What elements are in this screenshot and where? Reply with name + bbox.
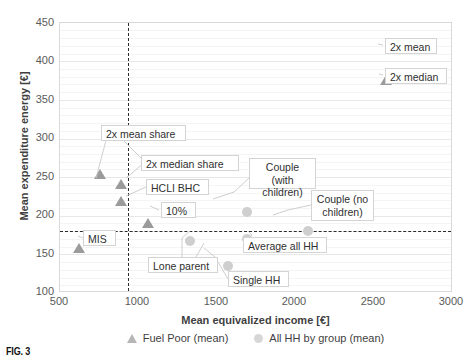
- triangle-marker-icon: [127, 334, 137, 343]
- annotation-hcli-bhc: HCLI BHC: [146, 179, 209, 195]
- gridline-minor: [60, 262, 451, 263]
- annotation-lone-parent: Lone parent: [148, 257, 218, 273]
- legend-entry-all-hh[interactable]: All HH by group (mean): [254, 332, 384, 344]
- gridline-minor: [60, 146, 451, 147]
- annotation-2x-mean: 2x mean: [385, 38, 437, 54]
- x-axis-title: Mean equivalized income [€]: [59, 314, 452, 326]
- point-single-hh[interactable]: [223, 261, 233, 271]
- legend-label-all-hh: All HH by group (mean): [269, 332, 384, 344]
- point-10-percent[interactable]: [142, 218, 154, 228]
- x-tick-3000: 3000: [421, 296, 468, 307]
- gridline-major-400: [60, 61, 451, 62]
- annotation-average-all-hh: Average all HH: [243, 237, 327, 253]
- annotation-2x-mean-share: 2x mean share: [101, 125, 186, 141]
- x-tick-1000: 1000: [107, 296, 167, 307]
- legend-entry-fuel-poor[interactable]: Fuel Poor (mean): [127, 332, 229, 344]
- annotation-10-percent: 10%: [161, 202, 196, 218]
- annotation-2x-median-share: 2x median share: [141, 155, 239, 171]
- y-axis-title: Mean expenditure energy [€]: [18, 36, 30, 256]
- annotation-mis: MIS: [83, 230, 116, 246]
- gridline-minor: [60, 30, 451, 31]
- gridline-minor: [60, 223, 451, 224]
- point-2x-mean-share[interactable]: [94, 169, 106, 179]
- chart-legend: Fuel Poor (mean) All HH by group (mean): [59, 332, 452, 344]
- x-tick-1500: 1500: [186, 296, 246, 307]
- gridline-minor: [60, 115, 451, 116]
- circle-marker-icon: [254, 334, 263, 343]
- expenditure-threshold-line: [60, 231, 451, 232]
- x-tick-500: 500: [29, 296, 89, 307]
- x-tick-2500: 2500: [343, 296, 403, 307]
- gridline-minor: [60, 123, 451, 124]
- gridline-major-350: [60, 100, 451, 101]
- gridline-minor: [60, 208, 451, 209]
- gridline-minor: [60, 108, 451, 109]
- annotation-couple-with-children: Couple (with children): [249, 158, 316, 189]
- x-tick-2000: 2000: [264, 296, 324, 307]
- annotation-2x-median: 2x median: [385, 68, 447, 84]
- point-couple-no-children[interactable]: [303, 226, 313, 236]
- gridline-minor: [60, 54, 451, 55]
- annotation-couple-no-children: Couple (no children): [311, 190, 374, 221]
- figure-caption: FIG. 3: [6, 345, 30, 357]
- gridline-minor: [60, 92, 451, 93]
- annotation-single-hh: Single HH: [228, 271, 289, 287]
- point-2x-median-share[interactable]: [115, 179, 127, 189]
- gridline-minor: [60, 193, 451, 194]
- legend-label-fuel-poor: Fuel Poor (mean): [143, 332, 229, 344]
- point-couple-with-children[interactable]: [242, 207, 252, 217]
- income-threshold-line: [128, 23, 129, 291]
- gridline-major-200: [60, 216, 451, 217]
- gridline-minor: [60, 84, 451, 85]
- point-lone-parent[interactable]: [185, 236, 195, 246]
- gridline-major-150: [60, 254, 451, 255]
- gridline-minor: [60, 154, 451, 155]
- y-tick-450: 450: [14, 17, 54, 28]
- point-hcli-bhc[interactable]: [115, 196, 127, 206]
